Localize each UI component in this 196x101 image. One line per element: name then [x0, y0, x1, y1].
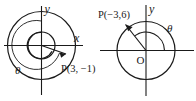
right-point-label: P(−3,6) [98, 9, 130, 21]
right-y-axis-label: y [148, 2, 155, 16]
left-point-label: P(3, −1) [61, 63, 96, 75]
left-y-axis-label: y [44, 2, 51, 16]
left-diagram-svg: y x θ P(3, −1) [0, 0, 98, 101]
diagram-panel-left: y x θ P(3, −1) [0, 0, 98, 101]
left-x-axis-label: x [73, 31, 80, 45]
right-theta-label: θ [167, 22, 173, 34]
figure-root: y x θ P(3, −1) y θ O [0, 0, 196, 101]
left-terminal-ray [42, 46, 67, 55]
diagram-panel-right: y θ O P(−3,6) [98, 0, 196, 101]
right-origin-label: O [137, 54, 145, 66]
left-theta-label: θ [15, 64, 21, 76]
right-diagram-svg: y θ O P(−3,6) [98, 0, 196, 101]
